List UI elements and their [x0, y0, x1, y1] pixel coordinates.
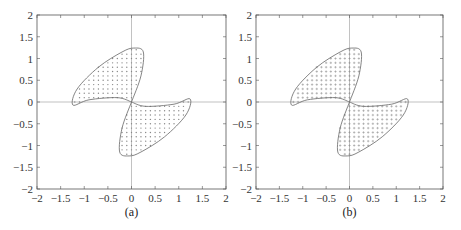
x-tick-label: 1.5	[413, 192, 427, 204]
y-tick-label: −1.5	[232, 161, 252, 173]
y-tick-label: 2	[28, 9, 34, 21]
x-tick-label: −0.5	[98, 192, 118, 204]
y-tick-label: 2	[247, 9, 253, 21]
x-tick-label: 0	[347, 192, 353, 204]
y-tick-label: 0	[28, 96, 34, 108]
y-tick-label: 1	[247, 53, 253, 65]
panel-caption: (a)	[125, 205, 138, 219]
x-tick-label: 0	[129, 192, 135, 204]
y-tick-label: −2	[21, 183, 33, 195]
x-tick-label: 1	[176, 192, 182, 204]
y-tick-label: 1	[28, 53, 34, 65]
x-tick-label: −1.5	[51, 192, 71, 204]
y-tick-label: 0.5	[19, 74, 33, 86]
y-tick-label: −1	[240, 140, 252, 152]
panel-b: −2−1.5−1−0.500.511.5221.510.50−0.5−1−1.5…	[232, 9, 446, 219]
figure: −2−1.5−1−0.500.511.5221.510.50−0.5−1−1.5…	[0, 0, 461, 230]
y-tick-label: 0	[247, 96, 253, 108]
region-outline	[72, 48, 144, 105]
x-tick-label: 1.5	[196, 192, 210, 204]
x-tick-label: 2	[223, 192, 229, 204]
x-tick-label: −1	[297, 192, 309, 204]
y-tick-label: −2	[240, 183, 252, 195]
y-tick-label: 0.5	[238, 74, 252, 86]
x-tick-label: 1	[394, 192, 400, 204]
x-tick-label: 0.5	[366, 192, 380, 204]
x-tick-label: −0.5	[316, 192, 336, 204]
panel-caption: (b)	[343, 205, 357, 219]
x-tick-label: −1	[78, 192, 90, 204]
y-tick-label: 1.5	[19, 31, 33, 43]
panel-a: −2−1.5−1−0.500.511.5221.510.50−0.5−1−1.5…	[13, 9, 229, 219]
region-outline	[119, 99, 191, 156]
y-tick-label: −1	[21, 140, 33, 152]
y-tick-label: 1.5	[238, 31, 252, 43]
x-tick-label: 0.5	[148, 192, 162, 204]
x-tick-label: 2	[440, 192, 446, 204]
y-tick-label: −1.5	[13, 161, 33, 173]
y-tick-label: −0.5	[232, 118, 252, 130]
y-tick-label: −0.5	[13, 118, 33, 130]
x-tick-label: −1.5	[269, 192, 289, 204]
